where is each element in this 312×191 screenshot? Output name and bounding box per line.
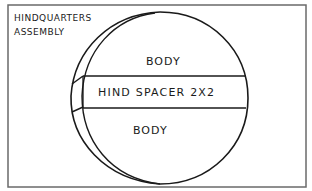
section-label-body-top: BODY — [146, 56, 181, 67]
hindquarters-assembly-diagram: HINDQUARTERS ASSEMBLY BODY HIND SPACER 2… — [0, 0, 312, 191]
title-line-1: HINDQUARTERS — [14, 11, 92, 25]
section-label-hind-spacer: HIND SPACER 2X2 — [98, 87, 215, 98]
crescent-tick-bottom — [72, 107, 83, 112]
section-label-body-bottom: BODY — [133, 125, 168, 136]
diagram-title: HINDQUARTERS ASSEMBLY — [14, 11, 92, 39]
title-line-2: ASSEMBLY — [14, 25, 92, 39]
